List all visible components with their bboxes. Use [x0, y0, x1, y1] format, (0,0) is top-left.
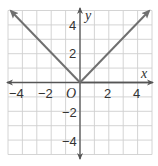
y-tick-label: 2 [69, 46, 76, 61]
y-tick-label: −4 [62, 134, 77, 149]
y-tick-label: 4 [69, 18, 76, 33]
x-tick-label: −4 [9, 86, 24, 101]
x-axis-label: x [140, 66, 148, 81]
origin-label: O [66, 86, 76, 101]
y-axis-label: y [83, 8, 92, 23]
x-tick-label: 4 [133, 86, 140, 101]
graph-canvas: x y O −4 −2 2 4 4 2 −2 −4 [0, 0, 158, 166]
x-tick-label: 2 [104, 86, 111, 101]
x-tick-label: −2 [38, 86, 53, 101]
y-tick-label: −2 [62, 105, 77, 120]
